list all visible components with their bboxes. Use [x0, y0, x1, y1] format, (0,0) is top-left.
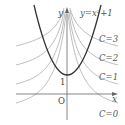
y-axis-arrow-icon: [65, 7, 69, 13]
curve-label-c0: C=0: [99, 109, 119, 119]
x-axis-label: x: [112, 94, 117, 104]
axes: [16, 7, 118, 120]
curve-label-c1: C=1: [99, 72, 118, 82]
y-intercept-label: 1: [60, 77, 65, 87]
y-axis-label: y: [57, 8, 64, 18]
parabola-equation-label: y=x²+1: [79, 8, 113, 18]
curve-label-c3: C=3: [99, 34, 118, 44]
curve-label-c2: C=2: [99, 53, 118, 63]
origin-label: O: [58, 96, 65, 106]
diagram: y y=x²+1 C=3 C=2 C=1 x C=0 1 O: [0, 0, 125, 125]
